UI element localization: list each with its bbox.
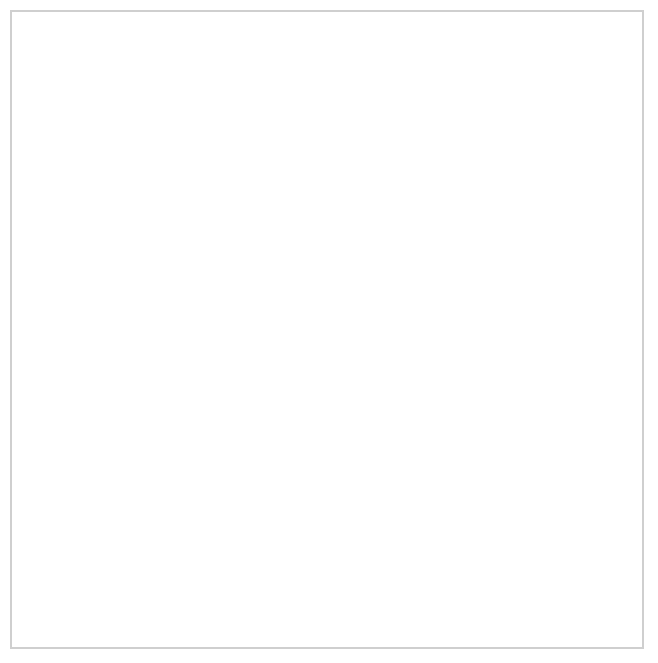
figure-frame (10, 10, 644, 649)
figure-root (0, 0, 658, 663)
